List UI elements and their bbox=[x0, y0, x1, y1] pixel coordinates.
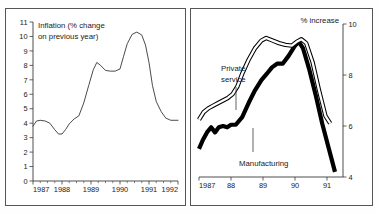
y-tick-label: 1 bbox=[23, 162, 27, 171]
x-tick-label: 1988 bbox=[54, 185, 70, 194]
y-tick-label: 3 bbox=[23, 133, 27, 142]
x-tick-label: 1991 bbox=[141, 185, 157, 194]
inflation-svg: 01234567891011 198719881989199019911992 … bbox=[6, 9, 185, 205]
inflation-panel: 01234567891011 198719881989199019911992 … bbox=[5, 8, 186, 206]
y-tick-label-right: 4 bbox=[349, 173, 353, 182]
y-tick-label: 7 bbox=[23, 76, 27, 85]
y-tick-group-right: 46810 bbox=[343, 20, 357, 182]
y-tick-label: 10 bbox=[19, 32, 27, 41]
x-tick-label-right: 91 bbox=[323, 181, 331, 190]
x-tick-label-right: 1987 bbox=[199, 181, 215, 190]
y-tick-label: 11 bbox=[20, 18, 28, 27]
earnings-panel: 46810 198788899091 % increase Private se… bbox=[190, 8, 373, 206]
inflation-plot-area: 01234567891011 198719881989199019911992 … bbox=[6, 9, 185, 205]
inflation-title-line2: on previous year) bbox=[38, 32, 99, 41]
earnings-plot-area: 46810 198788899091 % increase Private se… bbox=[191, 9, 372, 205]
y-tick-label-right: 10 bbox=[349, 20, 357, 29]
y-tick-label: 0 bbox=[23, 177, 27, 186]
percent-increase-label: % increase bbox=[300, 16, 339, 25]
x-tick-label: 1992 bbox=[162, 185, 178, 194]
private-service-label-line1: Private bbox=[221, 64, 245, 73]
y-tick-group: 01234567891011 bbox=[19, 18, 33, 186]
earnings-svg: 46810 198788899091 % increase Private se… bbox=[191, 9, 372, 205]
private-service-label-line2: service bbox=[221, 75, 246, 84]
y-tick-label-right: 8 bbox=[349, 71, 353, 80]
x-tick-label: 1989 bbox=[83, 185, 99, 194]
inflation-title-line1: Inflation (% change bbox=[38, 21, 105, 30]
chart-figure: 01234567891011 198719881989199019911992 … bbox=[0, 0, 378, 214]
y-tick-label: 5 bbox=[23, 104, 27, 113]
x-tick-label-right: 88 bbox=[227, 181, 235, 190]
x-tick-label: 1990 bbox=[112, 185, 128, 194]
x-tick-label: 1987 bbox=[33, 185, 49, 194]
y-tick-label: 2 bbox=[23, 148, 27, 157]
x-tick-label-right: 89 bbox=[259, 181, 267, 190]
y-tick-label: 9 bbox=[23, 47, 27, 56]
y-tick-label: 8 bbox=[23, 61, 27, 70]
y-tick-label: 4 bbox=[23, 119, 27, 128]
x-tick-group-right: 198788899091 bbox=[199, 177, 331, 190]
y-tick-label-right: 6 bbox=[349, 122, 353, 131]
inflation-series-line bbox=[33, 32, 178, 134]
x-tick-label-right: 90 bbox=[291, 181, 299, 190]
y-tick-label: 6 bbox=[23, 90, 27, 99]
manufacturing-label: Manufacturing bbox=[239, 159, 288, 168]
